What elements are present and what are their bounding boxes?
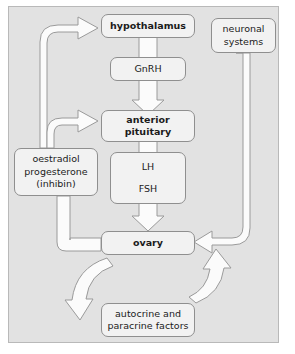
node-autocrine-line-2: paracrine factors	[107, 320, 188, 333]
node-ovary-line-1: ovary	[133, 237, 163, 250]
node-hypothalamus-line-1: hypothalamus	[110, 20, 186, 33]
node-gnrh-line-1: GnRH	[134, 63, 161, 76]
node-anterior-pituitary[interactable]: anterior pituitary	[101, 110, 195, 142]
node-gnrh[interactable]: GnRH	[110, 57, 186, 81]
arrow-neuronal-to-ovary	[194, 53, 250, 253]
node-fsh-label: FSH	[139, 183, 157, 196]
node-neuronal-systems-line-2: systems	[224, 36, 263, 49]
node-autocrine-paracrine[interactable]: autocrine and paracrine factors	[101, 303, 195, 337]
node-autocrine-line-1: autocrine and	[115, 308, 181, 321]
node-steroids[interactable]: oestradiol progesterone (inhibin)	[14, 148, 98, 196]
node-ovary[interactable]: ovary	[101, 231, 195, 255]
node-steroids-line-1: oestradiol	[32, 153, 79, 166]
node-lh-label: LH	[142, 161, 154, 174]
node-anterior-pituitary-line-2: pituitary	[125, 126, 171, 139]
node-anterior-pituitary-line-1: anterior	[126, 114, 169, 127]
arrow-autocrine-to-ovary	[189, 249, 231, 303]
node-neuronal-systems[interactable]: neuronal systems	[211, 18, 276, 53]
band-ovary-to-steroids	[57, 196, 101, 251]
node-lh-fsh[interactable]: LH FSH	[110, 152, 186, 204]
node-neuronal-systems-line-1: neuronal	[223, 23, 265, 36]
node-hypothalamus[interactable]: hypothalamus	[101, 14, 195, 38]
node-steroids-line-2: progesterone	[24, 166, 87, 179]
diagram-page: .arw { fill: #fbfbfb; stroke: #9a9a9a; s…	[0, 0, 295, 354]
node-steroids-line-3: (inhibin)	[36, 178, 75, 191]
arrow-steroids-to-pituitary	[47, 110, 98, 148]
